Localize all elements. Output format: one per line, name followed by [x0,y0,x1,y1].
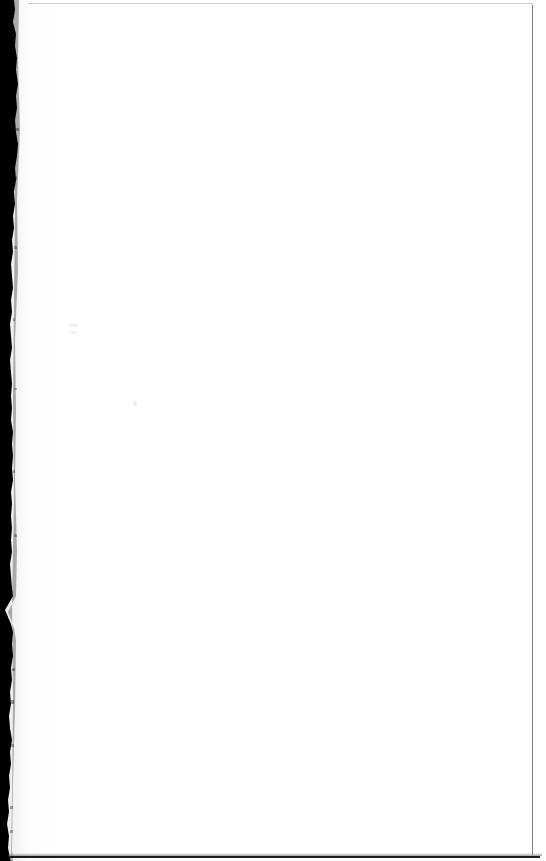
paper-surface [0,0,546,861]
scanned-page: Blank scanned book page with dark bindin… [0,0,546,861]
